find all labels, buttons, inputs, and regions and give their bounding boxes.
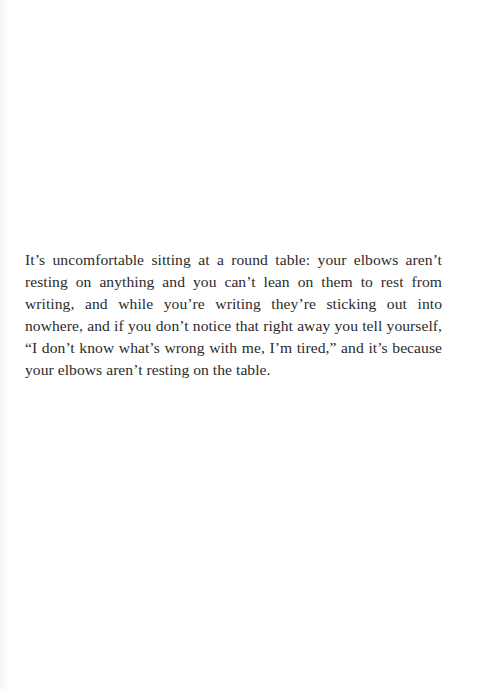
body-paragraph: It’s uncomfortable sitting at a round ta… <box>25 249 442 381</box>
page-edge-shadow <box>0 0 8 689</box>
